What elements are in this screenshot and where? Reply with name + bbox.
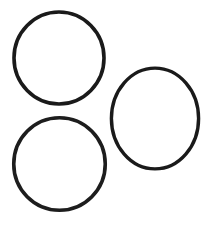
canvas-background: [0, 0, 202, 230]
circles-figure: [0, 0, 202, 230]
drawing-canvas: [0, 0, 202, 230]
